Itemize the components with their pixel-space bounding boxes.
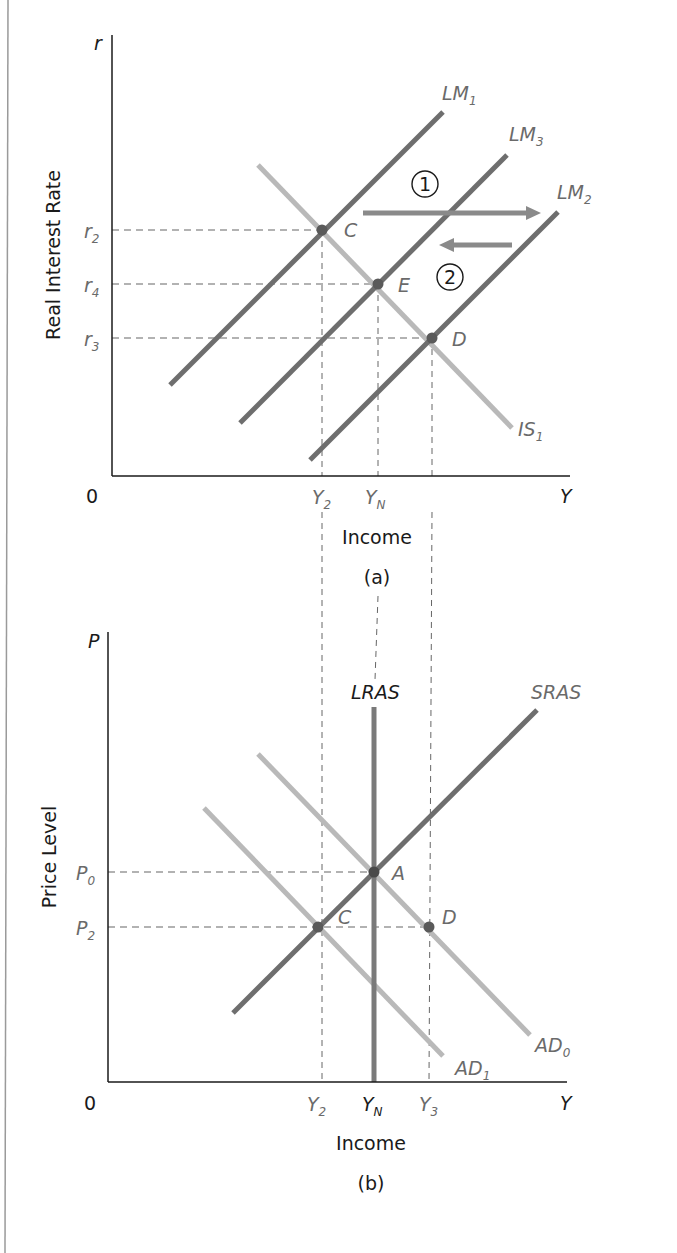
tick-r4: r4 xyxy=(84,274,99,300)
point-e-label: E xyxy=(398,274,410,296)
point-c-b-label: C xyxy=(338,906,352,928)
point-a xyxy=(369,867,380,878)
tick-r3: r3 xyxy=(84,328,99,354)
step-1-label: 1 xyxy=(419,173,431,195)
panel-a-origin: 0 xyxy=(86,485,98,507)
tick-p0: P0 xyxy=(76,862,95,888)
point-c-label: C xyxy=(344,219,358,241)
step-2-label: 2 xyxy=(444,266,456,288)
point-d xyxy=(427,333,438,344)
panel-a-x-title: Income xyxy=(342,526,412,548)
panel-b-x-title: Income xyxy=(336,1132,406,1154)
panel-b-caption: (b) xyxy=(358,1172,385,1194)
panel-b-adas: A C D LRAS SRAS AD0 AD1 P 0 Y P0 P2 Y2 Y… xyxy=(38,630,581,1194)
panel-a-x-symbol: Y xyxy=(560,485,573,507)
tick-b-yn: YN xyxy=(362,1093,383,1119)
lm3-label: LM3 xyxy=(509,123,544,149)
panel-a-islm: 1 2 C E D LM1 LM3 LM2 IS1 r 0 Y r2 r4 r3… xyxy=(42,32,592,588)
tick-a-yn: YN xyxy=(365,486,386,512)
panel-a-caption: (a) xyxy=(364,566,390,588)
sras-label: SRAS xyxy=(531,681,581,703)
ad1-label: AD1 xyxy=(453,1057,490,1083)
lm1-label: LM1 xyxy=(442,82,477,108)
point-d-b-label: D xyxy=(442,906,457,928)
panel-b-y-symbol: P xyxy=(88,630,100,652)
point-c xyxy=(317,225,328,236)
panel-b-origin: 0 xyxy=(84,1092,96,1114)
lras-label: LRAS xyxy=(351,681,400,703)
step-2-marker: 2 xyxy=(437,264,463,290)
ad1-curve xyxy=(204,808,443,1056)
sras-curve xyxy=(233,710,537,1013)
panel-b-x-symbol: Y xyxy=(560,1092,573,1114)
arrow-2-left xyxy=(439,238,512,252)
inter-panel-guides xyxy=(322,512,432,1082)
lm2-label: LM2 xyxy=(557,181,592,207)
tick-b-y2: Y2 xyxy=(307,1093,326,1119)
step-1-marker: 1 xyxy=(412,171,438,197)
ad0-curve xyxy=(258,754,530,1035)
page-frame-line xyxy=(5,0,8,1253)
point-c-b xyxy=(313,922,324,933)
point-d-b xyxy=(424,922,435,933)
chart-svg: 1 2 C E D LM1 LM3 LM2 IS1 r 0 Y r2 r4 r3… xyxy=(0,0,677,1253)
point-e xyxy=(373,279,384,290)
point-d-label: D xyxy=(452,328,467,350)
is1-label: IS1 xyxy=(518,418,543,444)
tick-r2: r2 xyxy=(84,220,99,246)
lm1-curve xyxy=(170,112,443,385)
panel-b-y-title: Price Level xyxy=(38,806,60,909)
connector-y3 xyxy=(429,512,432,1082)
point-a-label: A xyxy=(390,862,405,884)
tick-b-y3: Y3 xyxy=(419,1093,438,1119)
ad0-label: AD0 xyxy=(533,1034,571,1060)
tick-p2: P2 xyxy=(76,917,95,943)
connector-yn xyxy=(375,596,378,680)
panel-a-y-symbol: r xyxy=(94,32,103,54)
tick-a-y2: Y2 xyxy=(312,486,331,512)
figure: 1 2 C E D LM1 LM3 LM2 IS1 r 0 Y r2 r4 r3… xyxy=(0,0,677,1253)
panel-a-y-title: Real Interest Rate xyxy=(42,170,64,340)
